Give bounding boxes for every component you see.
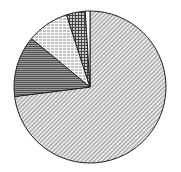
pie-slices xyxy=(14,11,166,163)
pie-chart xyxy=(0,0,181,172)
